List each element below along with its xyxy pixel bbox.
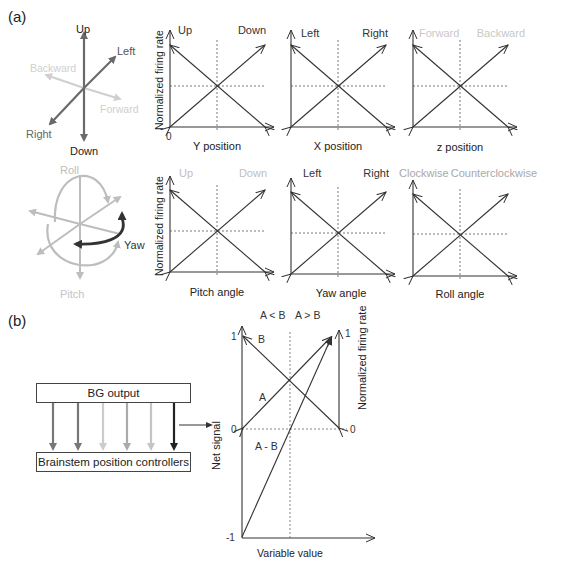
plot-left-label: Forward: [419, 27, 459, 39]
plot-xlabel: Yaw angle: [316, 287, 367, 299]
plot-right-label: Down: [239, 167, 267, 179]
firing-rate-ylabel: Normalized firing rate: [356, 305, 368, 410]
net-signal-plot: 1 0 -1 1 0 B A A - B A < B A > B Net sig…: [200, 300, 460, 575]
plot-ylabel: Normalized firing rate: [153, 30, 165, 130]
plot-right-label: Counterclockwise: [451, 167, 537, 179]
plot-left-label: Up: [178, 24, 192, 36]
plot-right-label: Right: [363, 167, 389, 179]
left-tick-neg1: -1: [226, 532, 235, 543]
region-a-gt-b: A > B: [295, 309, 320, 321]
plot-yaw-angle: Left Right Yaw angle: [291, 167, 395, 299]
right-tick-1: 1: [345, 328, 351, 339]
plot-right-label: Right: [362, 27, 388, 39]
region-a-lt-b: A < B: [260, 309, 285, 321]
plot-xlabel: Pitch angle: [190, 286, 244, 298]
plot-y-position: 0 Up Down Y position Normalized firing r…: [153, 24, 274, 152]
plot-xlabel: Y position: [193, 140, 241, 152]
plot-right-label: Down: [238, 24, 266, 36]
plot-left-label: Left: [303, 167, 321, 179]
plot-z-position: Forward Backward z position: [413, 27, 525, 153]
variable-value-xlabel: Variable value: [257, 547, 323, 559]
right-tick-0: 0: [350, 424, 356, 435]
label-b: B: [258, 333, 265, 345]
plot-x-position: Left Right X position: [291, 27, 395, 152]
label-a-minus-b: A - B: [255, 440, 278, 452]
plot-xlabel: Roll angle: [436, 288, 485, 300]
line-a-minus-b: [242, 336, 332, 537]
plot-right-label: Backward: [477, 27, 525, 39]
label-a: A: [259, 391, 266, 403]
plot-left-label: Left: [301, 27, 319, 39]
plot-ylabel: Normalized firing rate: [153, 176, 165, 276]
origin-label: 0: [166, 131, 172, 142]
line-b: [243, 336, 339, 428]
plot-xlabel: X position: [314, 140, 362, 152]
plot-roll-angle: Clockwise Counterclockwise Roll angle: [399, 167, 537, 300]
tuning-plots-grid: 0 Up Down Y position Normalized firing r…: [0, 0, 561, 310]
net-signal-ylabel: Net signal: [210, 421, 222, 470]
brainstem-controllers-box: Brainstem position controllers: [36, 452, 191, 472]
bg-arrow: [49, 403, 178, 451]
left-tick-1: 1: [231, 331, 237, 342]
left-tick-0: 0: [231, 424, 237, 435]
line-a: [243, 337, 331, 428]
plot-left-label: Clockwise: [399, 167, 449, 179]
panel-b-label: (b): [8, 312, 26, 329]
plot-pitch-angle: Up Down Pitch angle Normalized firing ra…: [153, 167, 274, 298]
plot-left-label: Up: [179, 167, 193, 179]
plot-xlabel: z position: [437, 141, 483, 153]
